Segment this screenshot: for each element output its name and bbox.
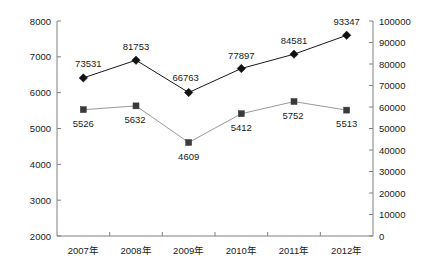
axes-layer: 2000300040005000600070008000010000200003… [30, 16, 411, 257]
data-point-value-label: 73531 [75, 58, 101, 69]
right-axis-tick-label: 0 [379, 231, 384, 242]
data-point-value-label: 66763 [172, 72, 198, 83]
left-axis-tick-label: 2000 [30, 231, 51, 242]
x-axis-category-label: 2010年 [226, 245, 257, 256]
data-point-value-label: 5526 [73, 118, 94, 129]
right-axis-tick-label: 70000 [379, 80, 405, 91]
data-point-value-label: 77897 [228, 50, 254, 61]
right-axis-tick-label: 10000 [379, 209, 405, 220]
data-point-diamond[interactable] [184, 88, 192, 96]
data-point-diamond[interactable] [237, 64, 245, 72]
right-axis-tick-label: 20000 [379, 188, 405, 199]
line-chart: 2000300040005000600070008000010000200003… [0, 0, 424, 277]
x-axis-category-label: 2008年 [120, 245, 151, 256]
x-axis-category-label: 2011年 [279, 245, 309, 256]
data-point-value-label: 5412 [231, 122, 252, 133]
left-axis-tick-label: 5000 [30, 123, 51, 134]
right-axis-tick-label: 60000 [379, 102, 405, 113]
right-axis-tick-label: 30000 [379, 166, 405, 177]
data-point-diamond[interactable] [342, 31, 350, 39]
data-point-diamond[interactable] [79, 74, 87, 82]
x-axis-category-label: 2012年 [331, 245, 362, 256]
data-point-square[interactable] [80, 107, 86, 113]
data-labels-layer: 7353181753667637789784581933475526563246… [73, 16, 360, 161]
left-axis-tick-label: 7000 [30, 51, 51, 62]
left-axis-tick-label: 8000 [30, 16, 51, 27]
x-axis-category-label: 2007年 [68, 245, 99, 256]
data-point-square[interactable] [238, 111, 244, 117]
data-point-value-label: 81753 [123, 41, 149, 52]
right-axis-tick-label: 80000 [379, 59, 405, 70]
left-axis-tick-label: 4000 [30, 159, 51, 170]
right-axis-tick-label: 100000 [379, 16, 411, 27]
series-line-square [83, 102, 346, 143]
data-point-diamond[interactable] [132, 56, 140, 64]
right-axis-tick-label: 40000 [379, 145, 405, 156]
data-point-value-label: 93347 [333, 16, 359, 27]
data-point-value-label: 84581 [281, 35, 307, 46]
data-point-value-label: 5752 [282, 110, 303, 121]
data-point-value-label: 4609 [178, 151, 199, 162]
data-point-square[interactable] [133, 103, 139, 109]
data-point-square[interactable] [186, 140, 192, 146]
x-axis-category-label: 2009年 [173, 245, 204, 256]
data-point-square[interactable] [344, 107, 350, 113]
right-axis-tick-label: 50000 [379, 123, 405, 134]
chart-container: 2000300040005000600070008000010000200003… [0, 0, 424, 277]
series-layer [79, 31, 351, 145]
left-axis-tick-label: 3000 [30, 195, 51, 206]
data-point-value-label: 5632 [124, 114, 145, 125]
data-point-value-label: 5513 [336, 118, 357, 129]
right-axis-tick-label: 90000 [379, 37, 405, 48]
left-axis-tick-label: 6000 [30, 87, 51, 98]
data-point-diamond[interactable] [290, 50, 298, 58]
data-point-square[interactable] [291, 99, 297, 105]
